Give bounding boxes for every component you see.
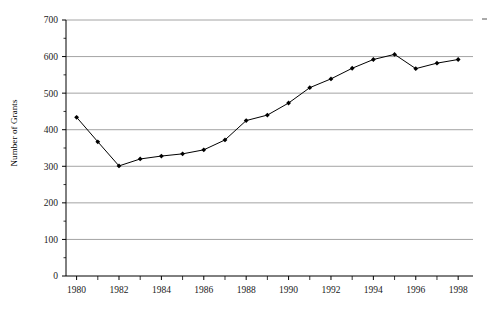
x-tick-label: 1998	[449, 285, 468, 295]
x-tick-label: 1992	[321, 285, 340, 295]
data-point-marker	[159, 154, 164, 159]
y-tick-label: 600	[44, 52, 59, 62]
x-axis-tick-labels: 1980198219841986198819901992199419961998	[67, 285, 468, 295]
y-tick-label: 100	[44, 235, 59, 245]
data-point-marker	[329, 76, 334, 81]
y-tick-label: 200	[44, 198, 59, 208]
x-tick-label: 1982	[109, 285, 128, 295]
data-point-marker	[265, 113, 270, 118]
data-point-marker	[350, 66, 355, 71]
y-tick-label: 0	[53, 271, 58, 281]
y-tick-label: 300	[44, 162, 59, 172]
x-tick-label: 1994	[364, 285, 383, 295]
data-point-markers	[74, 52, 460, 168]
x-tick-label: 1980	[67, 285, 86, 295]
x-axis-ticks	[77, 276, 459, 280]
data-point-marker	[371, 57, 376, 62]
data-point-marker	[456, 57, 461, 62]
y-tick-label: 400	[44, 125, 59, 135]
y-axis-tick-labels: 0100200300400500600700	[44, 15, 59, 281]
data-point-marker	[180, 151, 185, 156]
y-tick-label: 500	[44, 89, 59, 99]
y-tick-label: 700	[44, 15, 59, 25]
x-tick-label: 1990	[279, 285, 298, 295]
x-tick-label: 1996	[406, 285, 425, 295]
data-series-line	[77, 54, 459, 166]
x-tick-label: 1988	[237, 285, 256, 295]
x-tick-label: 1984	[152, 285, 171, 295]
data-point-marker	[138, 157, 143, 162]
line-chart: 0100200300400500600700 19801982198419861…	[0, 0, 489, 316]
data-point-marker	[435, 61, 440, 66]
x-tick-label: 1986	[194, 285, 213, 295]
data-point-marker	[201, 147, 206, 152]
chart-container: Number of Grants 0100200300400500600700 …	[0, 0, 489, 316]
gridlines	[66, 20, 473, 239]
